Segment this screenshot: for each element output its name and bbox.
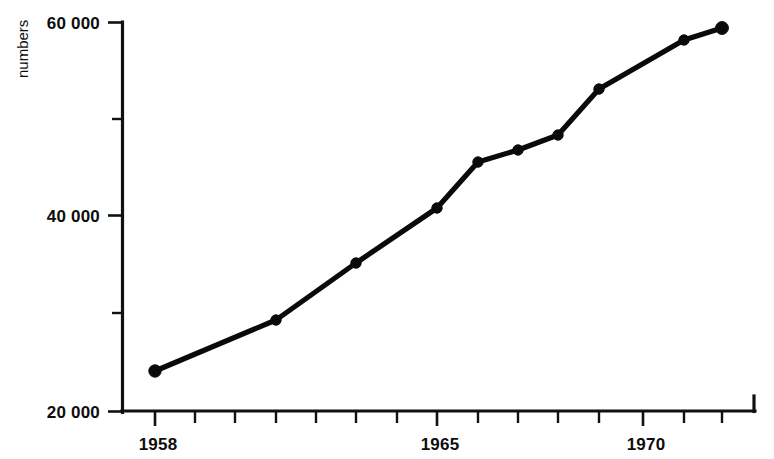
data-series [149, 22, 729, 378]
chart-canvas: 60 000 40 000 20 000 1958 1965 1970 numb… [0, 0, 774, 459]
data-point [594, 84, 604, 94]
y-tick-label-60000: 60 000 [47, 14, 100, 33]
y-axis-tick-labels: 60 000 40 000 20 000 [47, 14, 100, 422]
x-axis-tick-labels: 1958 1965 1970 [139, 435, 666, 454]
data-point [149, 365, 161, 377]
x-tick-label-1965: 1965 [421, 435, 460, 454]
data-point [473, 157, 483, 167]
data-point [679, 35, 689, 45]
y-tick-label-20000: 20 000 [47, 403, 100, 422]
axis-lines [122, 22, 755, 413]
data-point [271, 315, 281, 325]
x-axis-ticks [155, 411, 722, 426]
line-chart-figure: 60 000 40 000 20 000 1958 1965 1970 numb… [0, 0, 774, 459]
data-point [553, 130, 563, 140]
data-point [513, 145, 523, 155]
data-point [351, 258, 361, 268]
y-axis-ticks [108, 23, 122, 412]
y-axis-title: numbers [14, 20, 31, 78]
series-line-numbers [155, 28, 722, 371]
data-point [716, 22, 729, 35]
series-markers [149, 22, 729, 378]
x-tick-label-1970: 1970 [627, 435, 666, 454]
data-point [432, 203, 442, 213]
y-tick-label-40000: 40 000 [47, 207, 100, 226]
x-tick-label-1958: 1958 [139, 435, 178, 454]
